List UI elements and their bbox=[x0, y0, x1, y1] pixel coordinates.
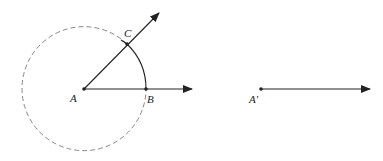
point-a-prime bbox=[259, 87, 263, 91]
point-c bbox=[125, 42, 129, 46]
point-a bbox=[82, 87, 86, 91]
label-a-prime: A′ bbox=[248, 93, 259, 105]
label-a: A bbox=[69, 92, 77, 104]
construction-diagram: A B C A′ bbox=[0, 0, 383, 161]
label-c: C bbox=[124, 27, 132, 39]
ray-ac bbox=[84, 13, 159, 89]
solid-arc-bc bbox=[127, 44, 146, 89]
point-b bbox=[144, 87, 148, 91]
label-b: B bbox=[147, 93, 154, 105]
